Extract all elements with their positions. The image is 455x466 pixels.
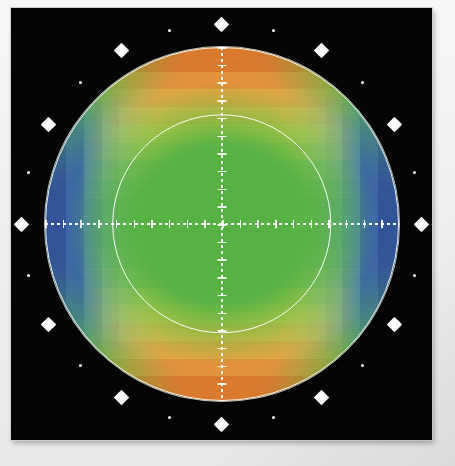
angular-marker-major — [214, 416, 230, 432]
figure-root — [0, 0, 455, 466]
angular-marker-minor — [168, 416, 171, 419]
angular-marker-minor — [27, 274, 30, 277]
angular-marker-minor — [27, 171, 30, 174]
angular-marker-minor — [361, 364, 364, 367]
angular-marker-major — [14, 216, 30, 232]
plot-panel — [11, 8, 432, 440]
angular-marker-major — [414, 216, 430, 232]
vertical-axis-line — [221, 47, 223, 401]
angular-marker-minor — [361, 81, 364, 84]
angular-marker-minor — [413, 274, 416, 277]
contour-disc-container — [45, 47, 399, 401]
angular-marker-minor — [272, 416, 275, 419]
angular-marker-minor — [272, 29, 275, 32]
angular-marker-minor — [413, 171, 416, 174]
angular-marker-major — [214, 16, 230, 32]
angular-marker-minor — [168, 29, 171, 32]
angular-marker-minor — [79, 364, 82, 367]
plot-stage — [11, 8, 432, 440]
